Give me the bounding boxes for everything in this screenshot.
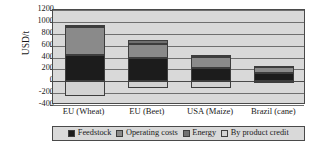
y-tick-mark-200 <box>50 69 53 70</box>
legend-label: Energy <box>192 129 216 137</box>
bar-segment <box>128 58 168 81</box>
legend-label: By product credit <box>231 129 289 137</box>
bar-group <box>65 10 105 105</box>
bar-segment <box>191 57 231 68</box>
bar-segment <box>128 44 168 59</box>
bar-segment <box>254 73 294 81</box>
y-tick-mark-1000 <box>50 22 53 23</box>
legend-swatch-icon <box>68 130 75 137</box>
bar-segment <box>65 25 105 27</box>
bar-group <box>191 10 231 105</box>
y-tick-mark-600 <box>50 46 53 47</box>
legend-item: Feedstock <box>68 129 111 137</box>
bar-segment <box>65 27 105 55</box>
bar-segment <box>65 55 105 82</box>
legend-swatch-icon <box>221 130 228 137</box>
y-tick-mark-0 <box>50 81 53 82</box>
y-tick-mark-1200 <box>50 10 53 11</box>
y-tick-mark-800 <box>50 34 53 35</box>
bar-segment <box>191 68 231 81</box>
chart-legend: FeedstockOperating costsEnergyBy product… <box>52 126 305 141</box>
plot-area <box>52 9 305 104</box>
bar-segment <box>128 81 168 88</box>
y-tick-mark-400 <box>50 58 53 59</box>
bar-segment <box>65 81 105 96</box>
legend-label: Operating costs <box>126 129 178 137</box>
bar-segment <box>254 81 294 83</box>
x-tick-label: Brazil (cane) <box>231 106 312 116</box>
bar-segment <box>128 40 168 44</box>
legend-swatch-icon <box>183 130 190 137</box>
y-tick-mark--200 <box>50 93 53 94</box>
legend-item: By product credit <box>221 129 289 137</box>
bar-segment <box>191 81 231 88</box>
bar-group <box>128 10 168 105</box>
legend-item: Operating costs <box>116 129 177 137</box>
bar-segment <box>191 55 231 57</box>
bar-chart: USD/t 120010008006004002000-200-400 EU (… <box>0 0 312 148</box>
legend-item: Energy <box>183 129 216 137</box>
bar-segment <box>254 66 294 68</box>
bar-group <box>254 10 294 105</box>
legend-label: Feedstock <box>78 129 112 137</box>
legend-swatch-icon <box>116 130 123 137</box>
